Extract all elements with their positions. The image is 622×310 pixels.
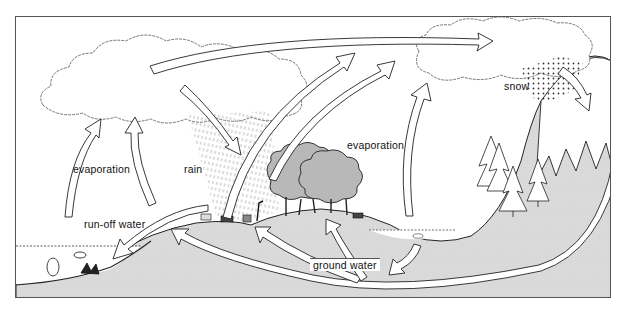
label-evaporation-left: evaporation — [73, 163, 130, 175]
small-fish-icon — [74, 252, 86, 258]
label-snow: snow — [504, 80, 529, 92]
lake-fish-icon — [413, 234, 423, 238]
label-runoff-water: run-off water — [84, 218, 145, 230]
water-cycle-diagram: evaporation rain run-off water evaporati… — [15, 16, 611, 298]
arrow-evap-lake — [403, 83, 431, 216]
deciduous-trees — [267, 142, 363, 216]
label-ground-water: ground water — [310, 258, 380, 271]
label-evaporation-right: evaporation — [347, 139, 404, 151]
label-rain: rain — [184, 163, 202, 175]
fish-icon — [47, 258, 59, 276]
arrow-evap-left-2 — [125, 117, 156, 206]
diagram-illustration — [16, 17, 611, 298]
